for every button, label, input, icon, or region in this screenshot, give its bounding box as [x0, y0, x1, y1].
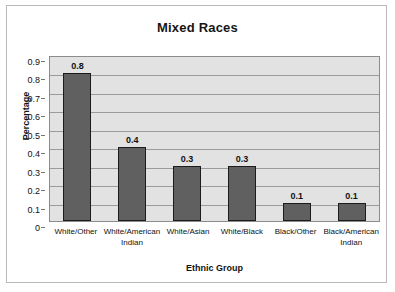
- x-axis-tick-label: Black/American Indian: [322, 226, 380, 248]
- bar-slot: 0.1: [324, 57, 379, 221]
- x-axis-tick-labels: White/OtherWhite/American IndianWhite/As…: [49, 226, 380, 248]
- y-axis-tick-label: 0.4: [8, 148, 40, 160]
- y-axis-tick-mark: [41, 227, 45, 228]
- x-axis-tick-label: Black/Other: [269, 226, 323, 237]
- y-axis-tick-label: 0.8: [8, 74, 40, 86]
- x-axis-tick-label: White/Asian: [161, 226, 215, 237]
- y-axis-tick-label: 0.5: [8, 130, 40, 142]
- bar[interactable]: [283, 203, 311, 221]
- x-axis-tick-label: White/American Indian: [103, 226, 161, 248]
- y-axis-tick-mark: [41, 98, 45, 99]
- bar-value-label: 0.1: [269, 191, 324, 201]
- y-axis-tick-label: 0.7: [8, 93, 40, 105]
- y-axis-tick-label: 0: [8, 222, 40, 234]
- x-axis-title: Ethnic Group: [49, 263, 380, 273]
- bar[interactable]: [63, 73, 91, 221]
- bar-slot: 0.3: [160, 57, 215, 221]
- y-axis-tick-mark: [41, 209, 45, 210]
- y-axis-tick-label: 0.3: [8, 167, 40, 179]
- x-axis-tick-label: White/Other: [49, 226, 103, 237]
- y-axis-tick-label: 0.9: [8, 56, 40, 68]
- bar-slot: 0.1: [269, 57, 324, 221]
- y-axis-tick-label: 0.6: [8, 111, 40, 123]
- bar-value-label: 0.1: [324, 191, 379, 201]
- y-axis-tick-mark: [41, 190, 45, 191]
- y-axis-tick-labels: 0.90.80.70.60.50.40.30.20.10: [7, 50, 45, 228]
- chart-title: Mixed Races: [7, 20, 388, 35]
- bar[interactable]: [228, 166, 256, 221]
- y-axis-tick-label: 0.1: [8, 204, 40, 216]
- x-axis-tick-label: White/Black: [215, 226, 269, 237]
- bar-value-label: 0.8: [50, 61, 105, 71]
- bar-slot: 0.8: [50, 57, 105, 221]
- chart-frame: Mixed Races Percentage 0.90.80.70.60.50.…: [6, 5, 387, 283]
- bar-slot: 0.3: [214, 57, 269, 221]
- bar-slot: 0.4: [105, 57, 160, 221]
- y-axis-tick-mark: [41, 153, 45, 154]
- y-axis-tick-mark: [41, 172, 45, 173]
- bar[interactable]: [338, 203, 366, 221]
- bar-value-label: 0.4: [105, 135, 160, 145]
- bar[interactable]: [173, 166, 201, 221]
- y-axis-tick-label: 0.2: [8, 185, 40, 197]
- y-axis-tick-mark: [41, 116, 45, 117]
- plot-area: 0.80.40.30.30.10.1: [49, 56, 380, 222]
- y-axis-tick-mark: [41, 61, 45, 62]
- bar-value-label: 0.3: [160, 154, 215, 164]
- y-axis-tick-mark: [41, 135, 45, 136]
- bar-series: 0.80.40.30.30.10.1: [50, 57, 379, 221]
- bar-value-label: 0.3: [214, 154, 269, 164]
- y-axis-tick-mark: [41, 79, 45, 80]
- bar[interactable]: [118, 147, 146, 221]
